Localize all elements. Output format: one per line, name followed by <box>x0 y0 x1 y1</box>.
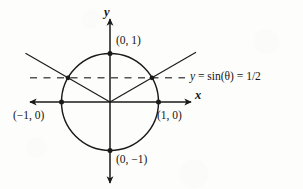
y-axis-label: y <box>104 6 110 19</box>
point-top <box>108 51 113 56</box>
x-axis-label: x <box>195 89 201 102</box>
point-right <box>156 100 161 105</box>
label-point-0-1: (0, 1) <box>116 35 141 47</box>
label-equation-sin-theta: y = sin(θ) = 1/2 <box>190 71 261 83</box>
point-intersection-right <box>150 75 155 80</box>
label-point-neg1-0: (−1, 0) <box>13 110 44 122</box>
diagram-canvas <box>0 0 303 189</box>
point-left <box>59 100 64 105</box>
label-point-0-neg1: (0, −1) <box>116 154 147 166</box>
point-bottom <box>108 148 113 153</box>
label-point-1-0: (1, 0) <box>157 110 182 122</box>
point-intersection-left <box>66 75 71 80</box>
unit-circle-figure: y x (0, 1) (0, −1) (−1, 0) (1, 0) y = si… <box>0 0 303 189</box>
equation-remainder: = sin(θ) = 1/2 <box>195 70 261 82</box>
